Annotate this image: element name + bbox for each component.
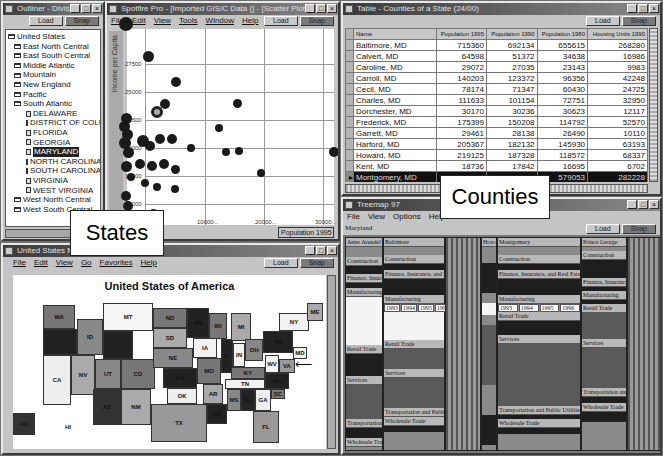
treemap-county[interactable]: Prince George Construction Finance, Insu…: [581, 237, 627, 451]
data-point[interactable]: [167, 134, 177, 144]
vertical-scrollbar[interactable]: [327, 275, 336, 449]
close-icon[interactable]: ×: [649, 4, 659, 13]
data-point[interactable]: [121, 161, 132, 172]
data-point[interactable]: [135, 159, 145, 169]
treemap-area[interactable]: Anne Arundel Construction Finance, Insur…: [345, 237, 658, 449]
table-row[interactable]: Carroll, MD1402031233729635642248: [346, 73, 648, 84]
data-point[interactable]: [257, 169, 265, 177]
menu-view[interactable]: View: [368, 211, 385, 223]
load-button[interactable]: Load: [29, 16, 63, 26]
tree-leaf[interactable]: WEST VIRGINIA: [8, 186, 98, 196]
tree-leaf[interactable]: DISTRICT OF COLU: [8, 118, 98, 128]
column-header[interactable]: Housing Units 1990: [588, 29, 648, 40]
minimize-icon[interactable]: _: [627, 4, 637, 13]
close-icon[interactable]: ×: [327, 4, 337, 13]
data-point[interactable]: [121, 191, 131, 201]
table-titlebar[interactable]: Table - Counties of a State (24/00) _□×: [343, 3, 660, 15]
snap-button[interactable]: Snap: [622, 224, 656, 234]
menu-help[interactable]: Help: [140, 257, 156, 269]
table-row[interactable]: Kent, MD1873617842166956702: [346, 161, 648, 172]
data-point[interactable]: [141, 179, 149, 187]
column-header[interactable]: Name: [354, 29, 437, 40]
menu-window[interactable]: Window: [206, 15, 234, 27]
maximize-icon[interactable]: □: [638, 200, 648, 209]
maximize-icon[interactable]: □: [316, 246, 326, 255]
data-point[interactable]: [187, 144, 195, 152]
load-button[interactable]: Load: [264, 16, 298, 26]
snap-button[interactable]: Snap: [300, 258, 334, 268]
tree-node[interactable]: Mountain: [8, 70, 98, 80]
maximize-icon[interactable]: □: [316, 4, 326, 13]
minimize-icon[interactable]: _: [627, 200, 637, 209]
scatter-plot-area[interactable]: 27500 25000 22500 20000 17500 15000 1000…: [127, 29, 334, 225]
data-point[interactable]: [127, 173, 135, 181]
menu-file[interactable]: File: [13, 257, 26, 269]
column-header[interactable]: Population 1980: [537, 29, 588, 40]
close-icon[interactable]: ×: [649, 200, 659, 209]
scatter-titlebar[interactable]: Spotfire Pro - [Imported GIS/C Data (] -…: [107, 3, 338, 15]
minimize-icon[interactable]: _: [305, 246, 315, 255]
data-point[interactable]: [155, 134, 165, 144]
tree-leaf-selected[interactable]: MARYLAND: [8, 147, 98, 157]
minimize-icon[interactable]: _: [70, 4, 80, 13]
table-row[interactable]: Harford, MD20536718213214593063193: [346, 139, 648, 150]
load-button[interactable]: Load: [586, 224, 620, 234]
menu-options[interactable]: Options: [393, 211, 421, 223]
treemap-county-small[interactable]: [627, 237, 662, 451]
menu-help[interactable]: Help: [242, 15, 258, 27]
tree-leaf[interactable]: SOUTH CAROLINA: [8, 166, 98, 176]
data-point[interactable]: [123, 147, 134, 158]
data-point[interactable]: [329, 147, 339, 157]
data-point[interactable]: [153, 183, 161, 191]
map-titlebar[interactable]: United States M... _□×: [3, 245, 338, 257]
tree-node[interactable]: New England: [8, 80, 98, 90]
data-point[interactable]: [159, 159, 169, 169]
treemap-county[interactable]: Baltimore Construction Finance, Insuranc…: [383, 237, 445, 451]
tree-node[interactable]: Middle Atlantic: [8, 61, 98, 71]
snap-button[interactable]: Snap: [65, 16, 99, 26]
tree-leaf[interactable]: GEORGIA: [8, 138, 98, 148]
tree-node-expanded[interactable]: South Atlantic: [8, 99, 98, 109]
table-row[interactable]: Calvert, MD64598513723463816986: [346, 51, 648, 62]
tree-node[interactable]: Pacific: [8, 90, 98, 100]
outliner-titlebar[interactable]: Outliner - Divisi... _□×: [3, 3, 103, 15]
treemap-county-small[interactable]: [445, 237, 481, 451]
data-point[interactable]: [171, 77, 181, 87]
table-row[interactable]: Charles, MD1116331011547275132950: [346, 95, 648, 106]
tree-node[interactable]: West North Central: [8, 195, 98, 205]
data-point[interactable]: [215, 124, 223, 132]
data-point[interactable]: [171, 185, 179, 193]
column-header[interactable]: Population 1990: [487, 29, 538, 40]
menu-edit[interactable]: Edit: [34, 257, 48, 269]
tree-leaf[interactable]: FLORIDA: [8, 128, 98, 138]
close-icon[interactable]: ×: [327, 246, 337, 255]
minimize-icon[interactable]: _: [305, 4, 315, 13]
load-button[interactable]: Load: [264, 258, 298, 268]
menu-tools[interactable]: Tools: [179, 15, 198, 27]
table-row[interactable]: Caroline, MD2907227035231439983: [346, 62, 648, 73]
treemap-county[interactable]: Howard: [481, 237, 497, 451]
close-icon[interactable]: ×: [92, 4, 102, 13]
tree-root[interactable]: United States: [8, 32, 98, 42]
treemap-county[interactable]: Montgomery Construction Finance, Insuran…: [497, 237, 581, 451]
maximize-icon[interactable]: □: [638, 4, 648, 13]
table-row[interactable]: Cecil, MD78174713476043024725: [346, 84, 648, 95]
menu-view[interactable]: View: [56, 257, 73, 269]
data-point[interactable]: [233, 99, 242, 108]
menu-favorites[interactable]: Favorites: [100, 257, 133, 269]
tree-leaf[interactable]: DELAWARE: [8, 109, 98, 119]
vertical-scrollbar[interactable]: [649, 28, 658, 182]
menu-edit[interactable]: Edit: [132, 15, 146, 27]
table-row[interactable]: Dorchester, MD30170302363062312117: [346, 106, 648, 117]
load-button[interactable]: Load: [586, 16, 620, 26]
tree-leaf[interactable]: NORTH CAROLINA: [8, 157, 98, 167]
data-point[interactable]: [235, 147, 243, 155]
data-point[interactable]: [147, 161, 157, 171]
tree-node[interactable]: East South Central: [8, 51, 98, 61]
data-point[interactable]: [143, 51, 154, 62]
tree-leaf[interactable]: VIRGINIA: [8, 176, 98, 186]
menu-go[interactable]: Go: [81, 257, 92, 269]
snap-button[interactable]: Snap: [300, 16, 334, 26]
treemap-county[interactable]: Anne Arundel Construction Finance, Insur…: [345, 237, 383, 451]
maximize-icon[interactable]: □: [81, 4, 91, 13]
